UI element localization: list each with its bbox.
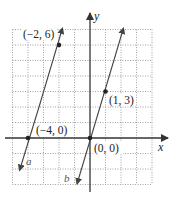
label-m4-0: (−4, 0)	[36, 124, 68, 137]
point-m2-6	[57, 43, 62, 48]
grid	[13, 30, 153, 185]
point-m4-0	[26, 136, 31, 141]
y-axis-label: y	[93, 9, 100, 23]
x-axis-label: x	[157, 140, 164, 154]
point-0-0	[88, 136, 93, 141]
line-a-label: a	[26, 155, 32, 167]
label-1-3: (1, 3)	[109, 94, 134, 107]
label-m2-6: (−2, 6)	[23, 28, 55, 41]
coordinate-plane: x y (−2, 6) (−4, 0) (0, 0) (1, 3) a b	[0, 0, 177, 198]
line-b-label: b	[64, 172, 70, 184]
point-1-3	[103, 89, 108, 94]
label-0-0: (0, 0)	[94, 142, 119, 155]
